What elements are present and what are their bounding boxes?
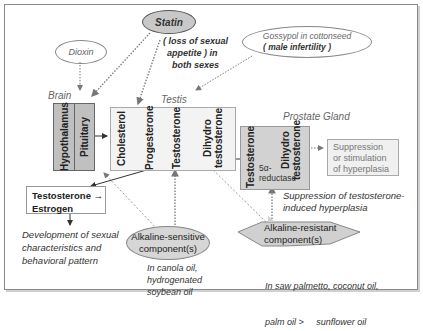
alkaline-resistant-label: Alkaline-resistant component(s)	[264, 222, 336, 246]
alkaline-resistant-sources: In saw palmetto, coconut oil, palm oil >…	[265, 256, 379, 331]
